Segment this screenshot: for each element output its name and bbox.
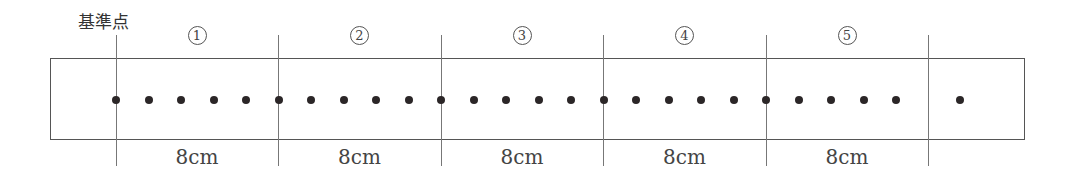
- dot: [145, 96, 153, 104]
- circled-number: 1: [188, 26, 207, 45]
- dot: [177, 96, 185, 104]
- dot: [405, 96, 413, 104]
- dot: [340, 96, 348, 104]
- segment-number: 3: [441, 26, 603, 45]
- dot: [600, 96, 608, 104]
- segment-number: 2: [278, 26, 441, 45]
- segment-distance: 8cm: [116, 145, 278, 169]
- dot: [730, 96, 738, 104]
- dot: [762, 96, 770, 104]
- dot: [242, 96, 250, 104]
- circled-number: 4: [675, 26, 694, 45]
- dot: [470, 96, 478, 104]
- segment-distance: 8cm: [766, 145, 928, 169]
- dot: [697, 96, 705, 104]
- dot: [665, 96, 673, 104]
- dot: [567, 96, 575, 104]
- dot: [372, 96, 380, 104]
- segment-number: 1: [116, 26, 278, 45]
- segment-number: 5: [766, 26, 928, 45]
- dot: [827, 96, 835, 104]
- circled-number: 5: [838, 26, 857, 45]
- dot: [275, 96, 283, 104]
- circled-number: 3: [513, 26, 532, 45]
- dot: [112, 96, 120, 104]
- dot: [535, 96, 543, 104]
- dot: [307, 96, 315, 104]
- dot: [860, 96, 868, 104]
- dot: [502, 96, 510, 104]
- dot: [956, 96, 964, 104]
- segment-distance: 8cm: [278, 145, 441, 169]
- circled-number: 2: [350, 26, 369, 45]
- segment-distance: 8cm: [441, 145, 603, 169]
- dot: [632, 96, 640, 104]
- reference-line: [928, 35, 929, 166]
- dot: [437, 96, 445, 104]
- segment-number: 4: [603, 26, 766, 45]
- segment-distance: 8cm: [603, 145, 766, 169]
- dot: [210, 96, 218, 104]
- dot: [795, 96, 803, 104]
- dot: [892, 96, 900, 104]
